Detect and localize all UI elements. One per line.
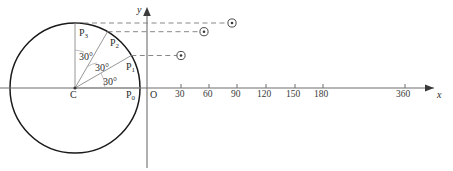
y-axis-arrowhead [143,7,151,16]
point-sub-p0: 0 [132,94,136,102]
x-tick-label-90: 90 [231,90,241,100]
x-axis-ticks [181,84,405,88]
angle-label-3: 30° [103,77,117,87]
sine-curve-construction-figure: P3 P P2 P1 P0 C 30° 30° 30° O y x 30 60 … [0,0,453,171]
y-axis-label: y [137,5,141,15]
circle-center-label: C [70,90,77,100]
x-tick-label-30: 30 [175,90,185,100]
diagram-canvas [0,0,453,171]
plotted-point-marker-60 [200,28,208,36]
x-tick-label-150: 150 [286,90,300,100]
point-label-p0: P0 [126,90,135,100]
point-label-p1: P1 [126,62,135,72]
origin-label: O [150,90,157,100]
x-axis-arrowhead [425,85,434,92]
x-tick-label-360: 360 [396,90,410,100]
x-tick-label-180: 180 [314,90,328,100]
x-tick-label-60: 60 [203,90,213,100]
plotted-point-markers [177,19,236,60]
x-tick-label-120: 120 [257,90,271,100]
angle-label-1: 30° [79,52,93,62]
angle-label-2: 30° [95,63,109,73]
plotted-point-marker-90 [228,19,236,27]
point-sub-p1: 1 [132,66,136,74]
point-sub-p2: 2 [116,42,120,50]
point-sub-p3: 3 [85,32,89,40]
point-label-p3: P3 [79,28,88,38]
plotted-point-marker-30 [177,51,185,59]
x-axis-label: x [437,90,441,100]
point-label-p2: P2 [110,38,119,48]
